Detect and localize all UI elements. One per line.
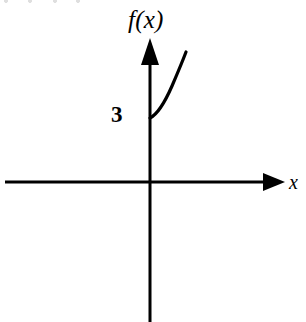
y-axis-label: f(x) — [128, 7, 164, 32]
graph-canvas — [0, 0, 306, 322]
function-graph-figure: f(x) 3 x — [0, 0, 306, 322]
x-axis-label: x — [289, 172, 298, 192]
x-axis-arrow-icon — [263, 173, 285, 191]
y-axis-arrow-icon — [141, 38, 159, 65]
y-intercept-label: 3 — [111, 103, 123, 126]
